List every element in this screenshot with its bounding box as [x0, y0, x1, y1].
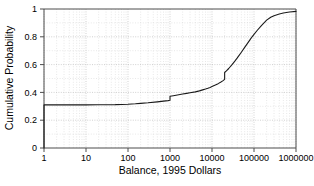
x-tick-label: 1000000	[278, 153, 313, 163]
y-tick-label: 0.2	[24, 115, 37, 125]
x-tick-label: 10	[81, 153, 91, 163]
x-tick-label: 1000	[160, 153, 180, 163]
y-axis-title: Cumulative Probability	[3, 25, 15, 130]
y-tick-label: 1	[32, 4, 37, 14]
clipped-footnote-text	[8, 183, 188, 186]
cumulative-probability-chart: 1101001000100001000001000000 00.20.40.60…	[0, 0, 314, 186]
x-tick-label: 10000	[199, 153, 224, 163]
x-tick-label: 1	[41, 153, 46, 163]
y-tick-label: 0	[32, 143, 37, 153]
x-axis-title: Balance, 1995 Dollars	[119, 164, 222, 176]
y-tick-label: 0.4	[24, 88, 37, 98]
y-tick-label: 0.6	[24, 60, 37, 70]
figure-container: 1101001000100001000001000000 00.20.40.60…	[0, 0, 314, 186]
x-tick-label: 100000	[239, 153, 269, 163]
y-tick-label: 0.8	[24, 32, 37, 42]
x-tick-label: 100	[120, 153, 135, 163]
